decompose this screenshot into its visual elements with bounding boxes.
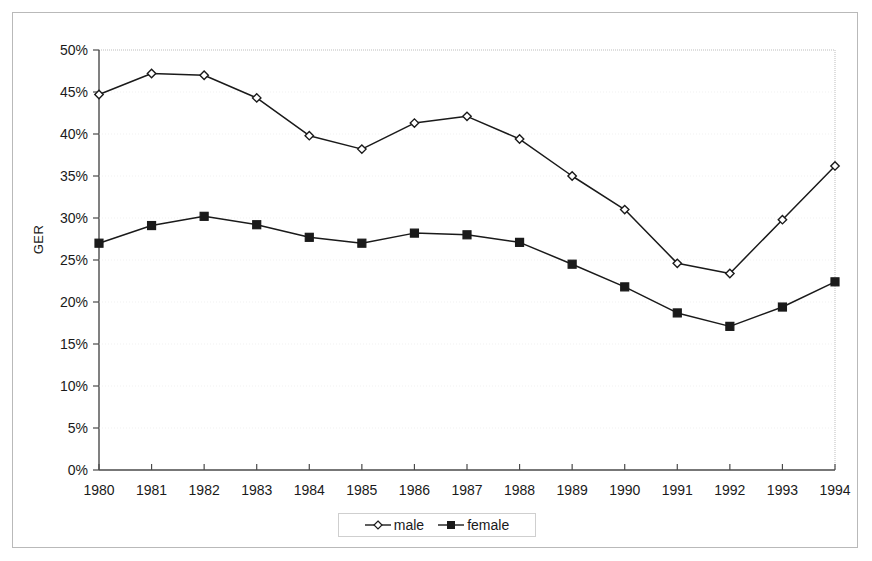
data-point-marker: [831, 278, 839, 286]
data-point-marker: [410, 229, 418, 237]
x-tick-label: 1986: [399, 482, 430, 498]
data-point-marker: [95, 239, 103, 247]
x-tick-label: 1984: [294, 482, 325, 498]
x-axis-ticks: [99, 464, 835, 470]
y-axis-tick-labels: 0%5%10%15%20%25%30%35%40%45%50%: [60, 42, 88, 478]
x-tick-label: 1989: [557, 482, 588, 498]
x-axis-tick-labels: 1980198119821983198419851986198719881989…: [83, 482, 850, 498]
data-point-marker: [673, 309, 681, 317]
data-point-marker: [200, 212, 208, 220]
data-point-marker: [358, 145, 366, 153]
y-tick-label: 20%: [60, 294, 88, 310]
line-chart: 0%5%10%15%20%25%30%35%40%45%50% 19801981…: [0, 0, 872, 561]
x-tick-label: 1990: [609, 482, 640, 498]
data-point-marker: [463, 231, 471, 239]
x-tick-label: 1993: [767, 482, 798, 498]
data-point-marker: [778, 303, 786, 311]
legend-item-female[interactable]: female: [438, 518, 509, 532]
data-point-marker: [568, 260, 576, 268]
data-point-marker: [305, 233, 313, 241]
y-tick-label: 10%: [60, 378, 88, 394]
data-point-marker: [621, 283, 629, 291]
y-tick-label: 25%: [60, 252, 88, 268]
y-tick-label: 50%: [60, 42, 88, 58]
x-tick-label: 1992: [714, 482, 745, 498]
data-point-marker: [253, 221, 261, 229]
x-tick-label: 1985: [346, 482, 377, 498]
x-tick-label: 1988: [504, 482, 535, 498]
series-male: [95, 69, 839, 277]
x-tick-label: 1994: [819, 482, 850, 498]
x-tick-label: 1981: [136, 482, 167, 498]
data-point-marker: [410, 119, 418, 127]
y-tick-label: 40%: [60, 126, 88, 142]
y-tick-label: 35%: [60, 168, 88, 184]
x-tick-label: 1987: [451, 482, 482, 498]
x-tick-label: 1980: [83, 482, 114, 498]
y-tick-label: 45%: [60, 84, 88, 100]
figure-container: 0%5%10%15%20%25%30%35%40%45%50% 19801981…: [0, 0, 872, 561]
y-tick-label: 30%: [60, 210, 88, 226]
y-tick-label: 5%: [68, 420, 88, 436]
legend-label-male: male: [394, 518, 424, 532]
legend-label-female: female: [467, 518, 509, 532]
legend-marker-male-icon: [365, 519, 391, 531]
x-tick-label: 1982: [189, 482, 220, 498]
y-axis-title: GER: [31, 210, 46, 270]
data-point-marker: [147, 69, 155, 77]
y-tick-label: 15%: [60, 336, 88, 352]
legend-item-male[interactable]: male: [365, 518, 424, 532]
data-point-marker: [463, 112, 471, 120]
y-axis-ticks: [93, 50, 835, 470]
data-point-marker: [148, 222, 156, 230]
x-tick-label: 1991: [662, 482, 693, 498]
data-point-marker: [516, 238, 524, 246]
y-tick-label: 0%: [68, 462, 88, 478]
chart-legend: male female: [338, 513, 536, 537]
data-point-marker: [726, 322, 734, 330]
legend-marker-female-icon: [438, 519, 464, 531]
data-point-marker: [200, 71, 208, 79]
data-point-marker: [358, 239, 366, 247]
x-tick-label: 1983: [241, 482, 272, 498]
